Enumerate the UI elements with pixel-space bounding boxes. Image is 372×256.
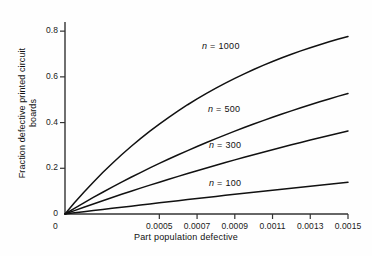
curve-series-500 — [65, 93, 348, 214]
y-axis-ticks — [60, 31, 65, 168]
series-label-300: n = 300 — [209, 140, 241, 150]
series-label-value: = 300 — [214, 140, 241, 150]
series-label-1000: n = 1000 — [202, 41, 240, 51]
data-curves — [65, 36, 348, 214]
curve-series-100 — [65, 182, 348, 214]
x-origin-label: 0 — [53, 221, 58, 231]
y-axis-title-line-2: boards — [28, 99, 39, 127]
y-axis-title-line-1: Fraction defective printed circuit — [17, 48, 28, 178]
x-axis-ticks — [159, 214, 348, 219]
series-label-value: = 1000 — [207, 41, 239, 51]
series-label-100: n = 100 — [209, 178, 241, 188]
y-axis-title: Fraction defective printed circuit board… — [15, 13, 41, 213]
chart-figure: 00.20.40.60.8 0.00050.00070.00090.00110.… — [0, 0, 372, 256]
x-axis-title: Part population defective — [0, 232, 372, 242]
curve-series-300 — [65, 131, 348, 214]
series-label-value: = 100 — [214, 178, 241, 188]
x-tick-label: 0.0015 — [323, 221, 372, 231]
series-label-value: = 500 — [213, 104, 240, 114]
series-label-500: n = 500 — [208, 104, 240, 114]
